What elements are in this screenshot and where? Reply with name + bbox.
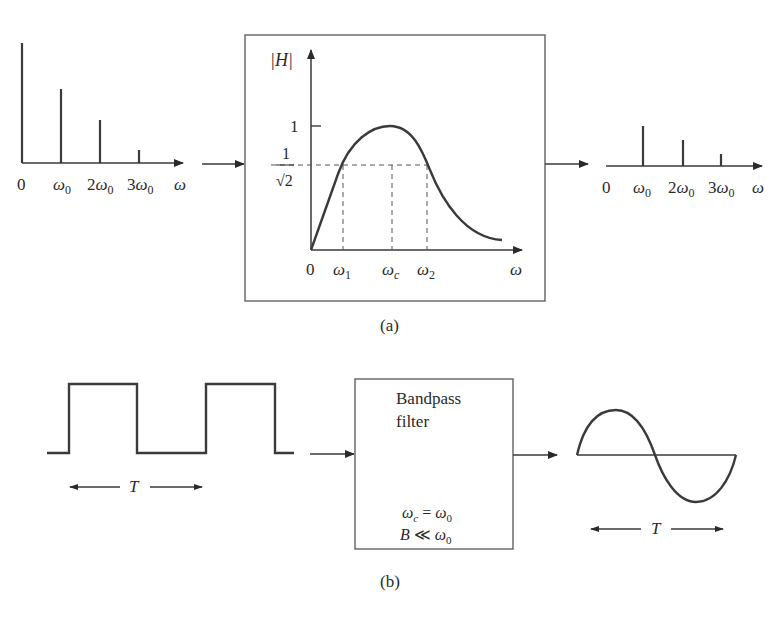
bandpass-condition-center: ωc = ω0 [402,504,453,524]
input-period-label: T [129,477,140,496]
x-tick-label-w1: ω1 [333,260,351,282]
tick-label-3w0: 3ω0 [127,175,154,197]
magnitude-response-curve [311,126,502,250]
x-tick-label-0: 0 [306,260,315,279]
tick-label-half-power-den: √2 [276,172,293,189]
x-axis-label: ω [510,260,522,279]
filter-response-plot: |H| 1 1 √2 0 ω1 ωc ω2 ω [270,50,522,282]
filter-response-box [245,35,545,301]
output-period-label: T [651,519,662,538]
out-axis-label-omega: ω [752,178,764,197]
tick-label-one: 1 [290,117,299,136]
sine-wave-output: T [577,410,736,538]
square-wave [47,384,294,453]
out-tick-label-w0: ω0 [633,178,651,200]
x-tick-label-wc: ωc [382,260,400,282]
caption-a: (a) [380,316,399,335]
square-wave-input: T [47,384,294,496]
x-tick-label-w2: ω2 [417,260,435,282]
out-tick-label-3w0: 3ω0 [708,178,735,200]
sine-wave [577,410,736,502]
output-spectrum: 0 ω0 2ω0 3ω0 ω [602,126,764,200]
out-tick-label-2w0: 2ω0 [668,178,695,200]
tick-label-0: 0 [17,175,26,194]
tick-label-w0: ω0 [53,175,71,197]
out-tick-label-0: 0 [602,178,611,197]
y-axis-label: |H| [270,50,293,70]
tick-label-half-power-num: 1 [282,145,290,162]
bandpass-title-line2: filter [396,412,429,431]
axis-label-omega: ω [174,175,186,194]
figure-canvas: 0 ω0 2ω0 3ω0 ω |H| 1 1 √2 0 ω1 ωc ω2 ω [0,0,783,618]
bandpass-title-line1: Bandpass [396,389,461,408]
caption-b: (b) [380,572,400,591]
bandpass-condition-bandwidth: B ≪ ω0 [400,526,452,546]
tick-label-2w0: 2ω0 [87,175,114,197]
input-spectrum: 0 ω0 2ω0 3ω0 ω [17,43,186,197]
